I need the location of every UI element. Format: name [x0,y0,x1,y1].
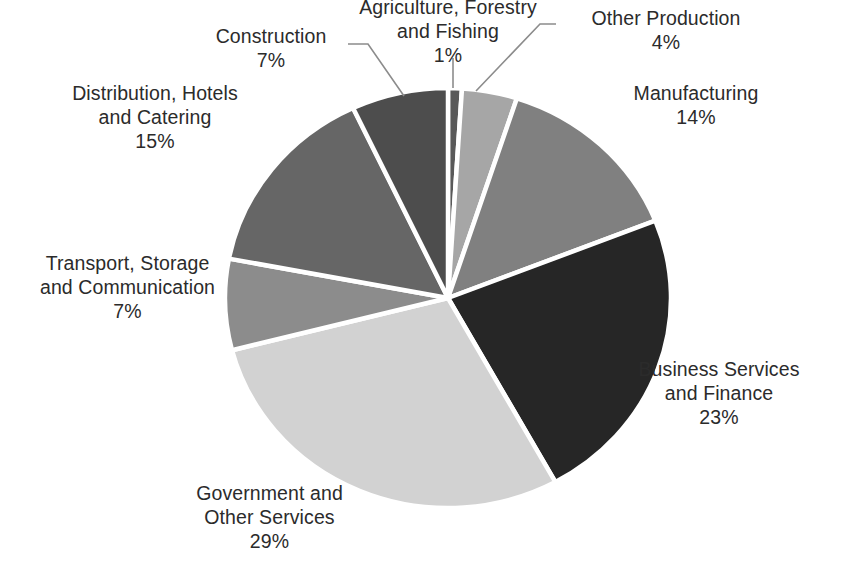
pie-chart-figure: Agriculture, Forestry and Fishing 1% Con… [0,0,844,570]
slice-value-other-production: 4% [556,31,776,55]
pie-slice-group [225,88,671,508]
slice-label-agriculture-line1: Agriculture, Forestry [338,0,558,20]
slice-label-government-line1: Government and [162,482,377,506]
slice-label-manufacturing-line1: Manufacturing [596,82,796,106]
slice-label-transport-line1: Transport, Storage [10,252,245,276]
slice-value-business: 23% [614,406,824,430]
slice-label-manufacturing: Manufacturing 14% [596,82,796,130]
slice-value-government: 29% [162,530,377,554]
slice-value-transport: 7% [10,300,245,324]
slice-label-other-production: Other Production 4% [556,7,776,55]
slice-label-government-line2: Other Services [162,506,377,530]
slice-label-business-line1: Business Services [614,358,824,382]
slice-label-distribution: Distribution, Hotels and Catering 15% [45,82,265,153]
slice-label-construction-line1: Construction [176,25,366,49]
slice-label-agriculture: Agriculture, Forestry and Fishing 1% [338,0,558,67]
slice-label-business-line2: and Finance [614,382,824,406]
slice-label-government: Government and Other Services 29% [162,482,377,553]
slice-label-distribution-line1: Distribution, Hotels [45,82,265,106]
slice-label-transport: Transport, Storage and Communication 7% [10,252,245,323]
slice-label-distribution-line2: and Catering [45,106,265,130]
slice-label-construction: Construction 7% [176,25,366,73]
slice-label-agriculture-line2: and Fishing [338,20,558,44]
slice-value-distribution: 15% [45,130,265,154]
slice-label-transport-line2: and Communication [10,276,245,300]
slice-value-construction: 7% [176,49,366,73]
slice-label-other-production-line1: Other Production [556,7,776,31]
slice-value-agriculture: 1% [338,44,558,68]
slice-label-business-services: Business Services and Finance 23% [614,358,824,429]
slice-value-manufacturing: 14% [596,106,796,130]
